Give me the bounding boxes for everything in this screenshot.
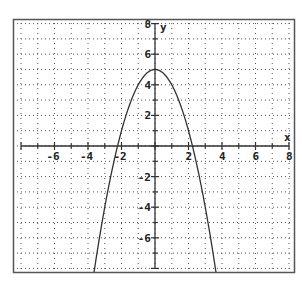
x-tick-label: 2	[186, 150, 193, 163]
y-tick-label: -6	[138, 232, 152, 245]
x-tick-label: -6	[47, 150, 61, 163]
y-axis-label: y	[160, 21, 167, 34]
y-tick-label: -4	[138, 201, 152, 214]
x-tick-label: 4	[219, 150, 226, 163]
y-tick-label: 6	[144, 48, 151, 61]
y-tick-label: -2	[138, 171, 151, 184]
x-axis-label: x	[284, 131, 291, 144]
x-tick-label: 8	[286, 150, 293, 163]
y-tick-label: 8	[144, 18, 151, 31]
function-plot: -6-4-22468 8642-2-4-6 x y	[0, 0, 302, 283]
y-tick-label: 4	[144, 79, 151, 92]
x-tick-label: 6	[253, 150, 260, 163]
x-tick-label: -4	[80, 150, 94, 163]
y-tick-label: 2	[144, 109, 151, 122]
